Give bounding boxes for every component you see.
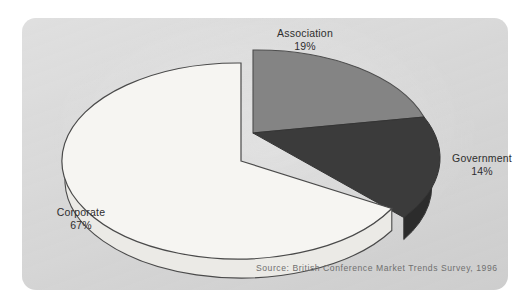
- slice-label-association-value: 19%: [250, 40, 360, 53]
- slice-label-corporate: Corporate 67%: [36, 206, 126, 232]
- slice-label-government-value: 14%: [437, 165, 527, 178]
- slice-label-corporate-name: Corporate: [57, 206, 106, 218]
- chart-stage: Association 19% Government 14% Corporate…: [0, 0, 530, 307]
- slice-label-association: Association 19%: [250, 27, 360, 53]
- slice-label-association-name: Association: [277, 27, 333, 39]
- pie-chart-figure: Association 19% Government 14% Corporate…: [0, 0, 530, 307]
- slice-label-government: Government 14%: [437, 152, 527, 178]
- slice-label-corporate-value: 67%: [36, 219, 126, 232]
- source-note: Source: British Conference Market Trends…: [256, 263, 498, 273]
- slice-label-government-name: Government: [452, 152, 512, 164]
